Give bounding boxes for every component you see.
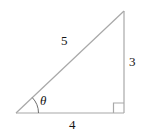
side-label-adjacent: 4 [69, 118, 76, 131]
angle-label-theta: θ [40, 94, 46, 107]
right-angle-marker-icon [114, 103, 125, 113]
theta-angle-arc-icon [32, 98, 38, 113]
triangle-diagram: 5 3 4 θ [0, 0, 145, 135]
side-label-hypotenuse: 5 [61, 34, 68, 47]
triangle-graphic [0, 0, 145, 135]
side-label-opposite: 3 [129, 55, 136, 68]
